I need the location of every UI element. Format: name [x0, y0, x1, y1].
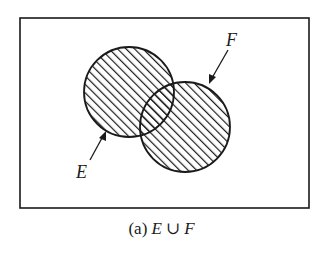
caption-union-operator: ∪: [166, 219, 180, 238]
label-e: E: [75, 162, 87, 182]
label-f: F: [225, 30, 238, 50]
figure-caption: (a) E∪F: [0, 218, 323, 239]
caption-prefix: (a): [128, 219, 147, 238]
caption-left-set: E: [152, 219, 162, 238]
caption-right-set: F: [184, 219, 194, 238]
